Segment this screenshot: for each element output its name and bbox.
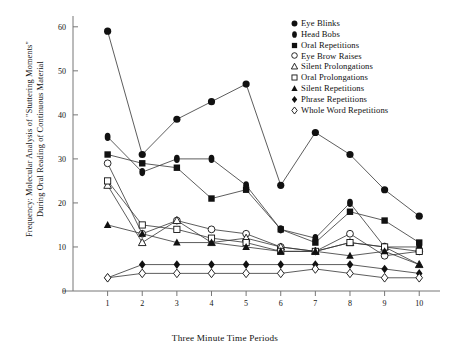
- legend-marker-filled-ellipse: [288, 29, 301, 40]
- y-tick-label: 20: [58, 199, 66, 208]
- data-point-filled-circle: [292, 20, 298, 26]
- data-point-open-triangle: [291, 64, 297, 70]
- legend-item[interactable]: Silent Prolongations: [288, 61, 388, 72]
- legend-item[interactable]: Oral Prolongations: [288, 72, 388, 83]
- legend-marker-filled-square: [288, 40, 301, 51]
- legend-label: Phrase Repetitions: [301, 94, 367, 105]
- square-icon: [289, 72, 300, 83]
- series-line: [108, 137, 420, 247]
- data-point-open-square: [139, 222, 145, 228]
- data-point-open-diamond: [312, 265, 319, 274]
- data-point-open-circle: [292, 53, 298, 59]
- data-point-open-square: [105, 178, 111, 184]
- x-tick-label: 1: [106, 299, 110, 308]
- series-silent-prolongations: [104, 181, 423, 267]
- circle-icon: [289, 50, 300, 61]
- data-point-filled-square: [104, 151, 110, 157]
- y-tick-label: 40: [58, 111, 66, 120]
- data-point-open-diamond: [208, 269, 215, 278]
- data-point-filled-circle: [208, 98, 215, 105]
- ellipse-icon: [289, 29, 300, 40]
- data-point-filled-ellipse: [347, 199, 353, 207]
- data-point-filled-ellipse: [105, 133, 111, 141]
- chart-figure: Frequency: Molecular Analysis of "Stutte…: [0, 0, 450, 358]
- x-tick-label: 5: [244, 299, 248, 308]
- legend-item[interactable]: Head Bobs: [288, 29, 388, 40]
- data-point-filled-diamond: [277, 260, 284, 269]
- legend-item[interactable]: Eye Blinks: [288, 18, 388, 29]
- series-line: [108, 269, 420, 278]
- legend-marker-open-circle: [288, 50, 301, 61]
- legend-item[interactable]: Phrase Repetitions: [288, 94, 388, 105]
- data-point-filled-circle: [312, 129, 319, 136]
- legend-label: Head Bobs: [301, 29, 340, 40]
- legend-label: Silent Repetitions: [301, 83, 364, 94]
- data-point-open-square: [292, 75, 297, 80]
- x-tick-label: 10: [415, 299, 423, 308]
- legend-item[interactable]: Oral Repetitions: [288, 40, 388, 51]
- legend-item[interactable]: Eye Brow Raises: [288, 51, 388, 62]
- data-point-filled-diamond: [381, 265, 388, 274]
- y-tick-label: 10: [58, 243, 66, 252]
- square-icon: [289, 40, 300, 51]
- triangle-icon: [289, 83, 300, 94]
- legend-label: Oral Prolongations: [301, 72, 368, 83]
- data-point-open-diamond: [174, 269, 181, 278]
- data-point-open-circle: [208, 226, 215, 233]
- data-point-filled-diamond: [243, 260, 250, 269]
- data-point-filled-diamond: [139, 260, 146, 269]
- data-point-filled-circle: [104, 28, 111, 35]
- data-point-open-diamond: [416, 273, 423, 282]
- x-tick-label: 2: [140, 299, 144, 308]
- series-phrase-repetitions: [104, 260, 422, 282]
- circle-icon: [289, 18, 300, 29]
- legend-item[interactable]: Whole Word Repetitions: [288, 105, 388, 116]
- legend-label: Oral Repetitions: [301, 40, 359, 51]
- legend-marker-open-square: [288, 72, 301, 83]
- x-tick-label: 9: [383, 299, 387, 308]
- data-point-filled-ellipse: [139, 168, 145, 176]
- series-oral-repetitions: [104, 151, 422, 245]
- data-point-open-diamond: [347, 269, 354, 278]
- data-point-filled-circle: [277, 182, 284, 189]
- data-point-filled-square: [381, 217, 387, 223]
- data-point-filled-ellipse: [174, 155, 180, 163]
- data-point-filled-circle: [139, 151, 146, 158]
- data-point-open-diamond: [104, 273, 111, 282]
- data-point-filled-circle: [416, 213, 423, 220]
- data-point-filled-ellipse: [209, 155, 215, 163]
- legend-item[interactable]: Silent Repetitions: [288, 83, 388, 94]
- data-point-filled-triangle: [291, 85, 297, 91]
- data-point-filled-square: [416, 239, 422, 245]
- y-tick-label: 50: [58, 67, 66, 76]
- legend-marker-filled-triangle: [288, 83, 301, 94]
- legend-marker-open-triangle: [288, 61, 301, 72]
- data-point-filled-square: [292, 42, 297, 47]
- data-point-filled-diamond: [174, 260, 181, 269]
- y-tick-label: 60: [58, 23, 66, 32]
- series-silent-repetitions: [104, 221, 423, 268]
- data-point-filled-diamond: [347, 260, 354, 269]
- x-tick-label: 3: [175, 299, 179, 308]
- legend-marker-filled-circle: [288, 18, 301, 29]
- data-point-filled-ellipse: [292, 31, 297, 38]
- data-point-filled-diamond: [292, 96, 297, 103]
- data-point-open-diamond: [292, 107, 297, 114]
- data-point-filled-circle: [381, 186, 388, 193]
- data-point-filled-circle: [346, 151, 353, 158]
- data-point-open-diamond: [381, 273, 388, 282]
- data-point-open-square: [416, 248, 422, 254]
- x-tick-label: 6: [279, 299, 283, 308]
- data-point-filled-triangle: [104, 221, 112, 228]
- data-point-filled-circle: [243, 80, 250, 87]
- data-point-open-circle: [347, 230, 354, 237]
- x-tick-label: 8: [348, 299, 352, 308]
- diamond-icon: [289, 105, 300, 116]
- data-point-filled-square: [174, 165, 180, 171]
- diamond-icon: [289, 94, 300, 105]
- legend-label: Eye Blinks: [301, 18, 340, 29]
- data-point-filled-square: [139, 160, 145, 166]
- y-tick-label: 0: [62, 287, 66, 296]
- data-point-open-diamond: [139, 269, 146, 278]
- x-tick-label: 7: [313, 299, 317, 308]
